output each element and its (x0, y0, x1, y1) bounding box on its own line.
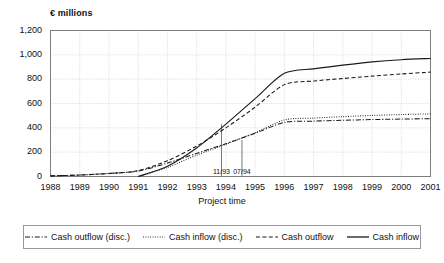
y-tick-label: 0 (6, 171, 42, 181)
y-tick-label: 400 (6, 122, 42, 132)
x-tick-label: 1991 (128, 182, 148, 192)
x-tick-label: 2001 (420, 182, 440, 192)
legend-label: Cash inflow (373, 232, 420, 242)
x-tick-label: 1998 (333, 182, 353, 192)
legend-label: Cash inflow (disc.) (169, 232, 243, 242)
x-tick-label: 1990 (99, 182, 119, 192)
x-tick-label: 1999 (362, 182, 382, 192)
x-tick-label: 1994 (216, 182, 236, 192)
legend-line-swatch (25, 233, 47, 241)
plot-area (0, 0, 444, 263)
x-tick-label: 1989 (70, 182, 90, 192)
series-line (51, 72, 431, 176)
legend-line-swatch (143, 233, 165, 241)
x-axis-title: Project time (0, 196, 444, 206)
y-tick-label: 1,200 (6, 25, 42, 35)
series-line (138, 114, 430, 177)
x-tick-label: 1995 (245, 182, 265, 192)
legend-item[interactable]: Cash inflow (347, 232, 420, 242)
legend-item[interactable]: Cash outflow (disc.) (25, 232, 130, 242)
cash-flow-chart: € millions 02004006008001,0001,200 19881… (0, 0, 444, 263)
x-tick-label: 1988 (40, 182, 60, 192)
x-tick-label: 1993 (187, 182, 207, 192)
legend-item[interactable]: Cash outflow (256, 232, 334, 242)
x-tick-label: 1992 (157, 182, 177, 192)
annotation-label: 07/94 (233, 168, 251, 175)
y-axis-unit-label: € millions (50, 8, 93, 18)
legend-item[interactable]: Cash inflow (disc.) (143, 232, 243, 242)
x-tick-label: 2000 (391, 182, 411, 192)
y-tick-label: 800 (6, 73, 42, 83)
annotation-label: 11/93 (213, 168, 230, 175)
chart-legend: Cash outflow (disc.)Cash inflow (disc.)C… (23, 225, 421, 249)
x-tick-label: 1997 (304, 182, 324, 192)
x-tick-label: 1996 (274, 182, 294, 192)
legend-line-swatch (256, 233, 278, 241)
y-tick-label: 200 (6, 146, 42, 156)
legend-label: Cash outflow (disc.) (51, 232, 130, 242)
legend-label: Cash outflow (282, 232, 334, 242)
y-tick-label: 600 (6, 98, 42, 108)
legend-line-swatch (347, 233, 369, 241)
y-tick-label: 1,000 (6, 49, 42, 59)
